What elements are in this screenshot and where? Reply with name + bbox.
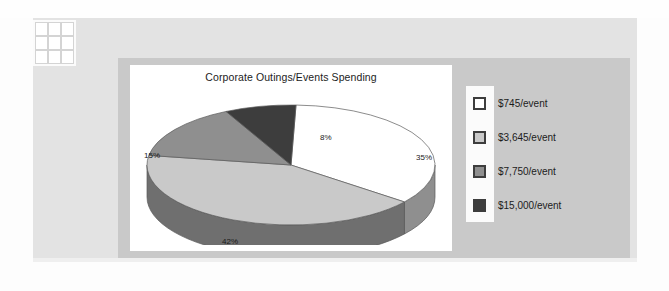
- chart-plot-area: Corporate Outings/Events Spending 8% 35%…: [130, 65, 452, 251]
- legend-item-7750[interactable]: $7,750/event: [466, 154, 616, 188]
- pie-chart: [138, 93, 444, 245]
- pie-chart-svg: [138, 93, 444, 245]
- legend-swatch-7750: [473, 165, 486, 178]
- chart-title: Corporate Outings/Events Spending: [130, 71, 452, 83]
- page-margin-bottom: [0, 262, 669, 291]
- grid-3x3-icon: [33, 20, 76, 66]
- grid-cell: [35, 22, 48, 36]
- legend-swatch-15000: [473, 199, 486, 212]
- grid-cell: [61, 50, 74, 64]
- legend-item-745[interactable]: $745/event: [466, 86, 616, 120]
- grid-cell: [48, 50, 61, 64]
- pie-data-label-3645: 42%: [222, 237, 238, 246]
- legend-label-3645: $3,645/event: [498, 132, 556, 143]
- chart-object[interactable]: Corporate Outings/Events Spending 8% 35%…: [118, 58, 630, 258]
- pie-data-label-15000: 8%: [320, 133, 332, 142]
- grid-cell: [35, 36, 48, 50]
- grid-cell: [48, 36, 61, 50]
- grid-cell: [61, 36, 74, 50]
- legend-item-15000[interactable]: $15,000/event: [466, 188, 616, 222]
- legend-item-3645[interactable]: $3,645/event: [466, 120, 616, 154]
- legend-label-15000: $15,000/event: [498, 200, 561, 211]
- page-margin-top: [0, 0, 669, 18]
- legend-label-745: $745/event: [498, 98, 548, 109]
- legend-label-7750: $7,750/event: [498, 166, 556, 177]
- chart-legend: $745/event $3,645/event $7,750/event $15…: [466, 86, 494, 222]
- grid-cell: [48, 22, 61, 36]
- pie-data-label-7750: 15%: [144, 151, 160, 160]
- legend-swatch-3645: [473, 131, 486, 144]
- legend-swatch-745: [473, 97, 486, 110]
- pie-data-label-745: 35%: [416, 153, 432, 162]
- grid-cell: [61, 22, 74, 36]
- pie-top-faces: [147, 105, 435, 225]
- slide-bottom-edge: [33, 258, 637, 262]
- grid-cell: [35, 50, 48, 64]
